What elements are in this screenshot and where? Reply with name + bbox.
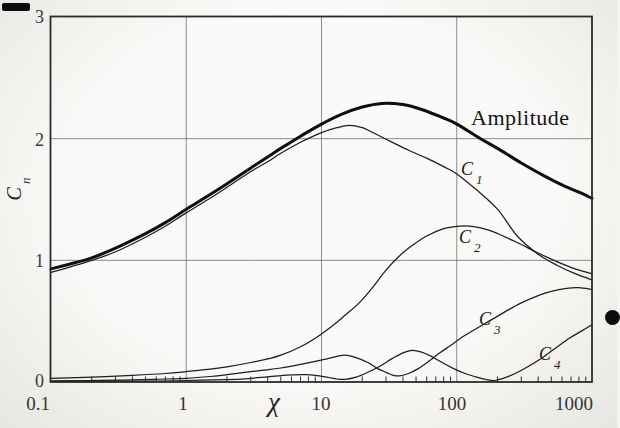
- x-tick-label: 100: [420, 392, 484, 416]
- y-tick-label: 0: [12, 370, 44, 392]
- curve-label-subscript: 1: [476, 172, 483, 187]
- curve-label-c4: C4: [539, 344, 561, 369]
- curve-label-symbol: C: [459, 227, 471, 247]
- x-tick-label: 1: [151, 392, 215, 416]
- curve-label-symbol: C: [479, 309, 491, 329]
- y-axis-title-subscript: n: [18, 178, 33, 185]
- curve-label-subscript: 3: [494, 322, 501, 337]
- scan-artifact-top-left: [2, 3, 30, 11]
- curve-label-amplitude: Amplitude: [471, 105, 570, 131]
- curve-label-subscript: 2: [474, 240, 481, 255]
- curve-label-subscript: 4: [554, 357, 561, 372]
- y-axis-title: Cn: [3, 159, 29, 219]
- curve-label-c2: C2: [459, 227, 481, 252]
- x-tick-label: 1000: [542, 392, 606, 416]
- x-axis-title: χ: [254, 387, 294, 418]
- y-axis-title-symbol: C: [3, 187, 25, 200]
- x-tick-label: 0.1: [6, 392, 70, 416]
- y-tick-label: 1: [12, 250, 44, 272]
- gridlines: [51, 17, 592, 382]
- curve-label-c1: C1: [461, 159, 483, 184]
- x-tick-label: 10: [289, 392, 353, 416]
- curve-label-symbol: C: [461, 159, 473, 179]
- curve-label-c3: C3: [479, 309, 501, 334]
- curve-label-symbol: C: [539, 344, 551, 364]
- y-tick-label: 2: [12, 129, 44, 151]
- scan-artifact-right-edge: [605, 310, 620, 325]
